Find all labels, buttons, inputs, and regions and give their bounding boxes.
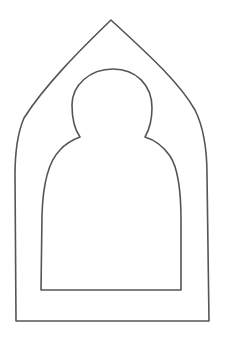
figure-canvas — [0, 0, 225, 339]
inner-bust-outline — [41, 69, 181, 290]
arch-frame-drawing — [0, 0, 225, 339]
outer-arch-frame-outline — [15, 20, 209, 321]
